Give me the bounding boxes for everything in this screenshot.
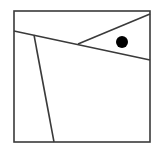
geometry-diagram [0,0,164,150]
near-vertical-line [34,35,54,142]
black-dot [116,36,128,48]
upper-diagonal-line [78,14,150,44]
outer-square [14,11,150,142]
